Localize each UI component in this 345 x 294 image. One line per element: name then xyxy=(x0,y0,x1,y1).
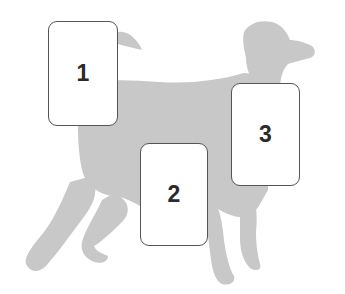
label-number-1: 1 xyxy=(77,60,90,87)
label-number-2: 2 xyxy=(168,181,181,208)
label-card-2: 2 xyxy=(140,143,208,246)
label-number-3: 3 xyxy=(259,121,272,148)
dog-tail xyxy=(118,32,142,50)
dog-leg-back-left xyxy=(26,176,96,271)
label-card-3: 3 xyxy=(231,83,300,186)
label-card-1: 1 xyxy=(48,21,118,126)
